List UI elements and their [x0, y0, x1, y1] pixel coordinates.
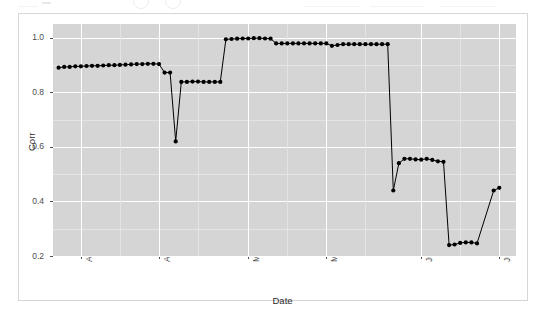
data-point — [302, 41, 306, 45]
data-point — [475, 241, 479, 245]
data-point — [269, 37, 273, 41]
data-point — [492, 188, 496, 192]
data-point — [280, 41, 284, 45]
data-point — [57, 66, 61, 70]
data-point — [174, 139, 178, 143]
data-point — [207, 80, 211, 84]
x-axis-title: Date — [273, 296, 293, 306]
data-point — [68, 65, 72, 69]
data-point — [441, 160, 445, 164]
data-point — [458, 241, 462, 245]
data-point — [218, 80, 222, 84]
data-point — [213, 80, 217, 84]
data-point — [140, 62, 144, 66]
data-point — [252, 36, 256, 40]
data-point — [464, 240, 468, 244]
data-point — [425, 157, 429, 161]
data-point — [402, 157, 406, 161]
data-point — [291, 41, 295, 45]
toolbar-bar — [18, 6, 38, 7]
data-point — [330, 44, 334, 48]
data-point — [285, 41, 289, 45]
data-point — [168, 71, 172, 75]
data-point — [296, 41, 300, 45]
data-point — [324, 41, 328, 45]
data-point — [274, 41, 278, 45]
data-point — [414, 157, 418, 161]
toolbar-bar — [440, 6, 495, 7]
data-point — [62, 65, 66, 69]
data-point — [469, 240, 473, 244]
data-point — [135, 62, 139, 66]
data-point — [263, 36, 267, 40]
data-point — [453, 242, 457, 246]
y-tick-label: 0.6 — [32, 142, 44, 151]
toolbar-circle-icon — [133, 0, 149, 9]
data-point — [369, 42, 373, 46]
data-point — [341, 42, 345, 46]
series-line — [59, 38, 500, 245]
data-point — [101, 63, 105, 67]
y-tick-label: 0.8 — [32, 88, 44, 97]
screenshot-root: Corr Date 0.20.40.60.81.0 Apr 01Apr 15Ma… — [0, 0, 546, 327]
data-point — [397, 161, 401, 165]
data-point — [163, 71, 167, 75]
data-point — [419, 158, 423, 162]
data-point — [386, 42, 390, 46]
data-point — [123, 63, 127, 67]
data-point — [90, 64, 94, 68]
data-point — [179, 80, 183, 84]
data-point — [374, 42, 378, 46]
data-point — [358, 42, 362, 46]
data-point — [146, 62, 150, 66]
data-point — [352, 42, 356, 46]
data-point — [257, 36, 261, 40]
gridline-major-y — [53, 256, 516, 257]
data-point — [430, 158, 434, 162]
data-point — [190, 80, 194, 84]
data-point — [436, 159, 440, 163]
series-points — [57, 36, 502, 247]
toolbar-bar — [305, 6, 360, 7]
toolbar-circle-icon — [165, 0, 181, 9]
toolbar-bar — [370, 6, 425, 7]
plot-card: Corr Date 0.20.40.60.81.0 Apr 01Apr 15Ma… — [18, 13, 528, 301]
data-point — [319, 41, 323, 45]
data-point — [497, 186, 501, 190]
y-tick-label: 0.2 — [32, 252, 44, 261]
data-point — [229, 37, 233, 41]
data-point — [335, 43, 339, 47]
data-point — [129, 62, 133, 66]
data-point — [408, 157, 412, 161]
data-point — [380, 42, 384, 46]
data-point — [391, 188, 395, 192]
data-point — [196, 80, 200, 84]
toolbar-remnant — [0, 0, 546, 9]
toolbar-dash-icon — [42, 2, 51, 4]
data-series-corr — [53, 24, 516, 256]
data-point — [235, 37, 239, 41]
data-point — [185, 80, 189, 84]
data-point — [202, 80, 206, 84]
plot-panel — [53, 24, 516, 256]
data-point — [447, 243, 451, 247]
data-point — [84, 64, 88, 68]
data-point — [96, 64, 100, 68]
data-point — [107, 63, 111, 67]
data-point — [73, 64, 77, 68]
data-point — [313, 41, 317, 45]
data-point — [151, 62, 155, 66]
data-point — [118, 63, 122, 67]
data-point — [347, 42, 351, 46]
data-point — [79, 64, 83, 68]
y-tick-label: 1.0 — [32, 33, 44, 42]
data-point — [157, 62, 161, 66]
data-point — [363, 42, 367, 46]
data-point — [308, 41, 312, 45]
y-tick-label: 0.4 — [32, 197, 44, 206]
data-point — [246, 36, 250, 40]
data-point — [224, 37, 228, 41]
data-point — [241, 36, 245, 40]
data-point — [112, 63, 116, 67]
